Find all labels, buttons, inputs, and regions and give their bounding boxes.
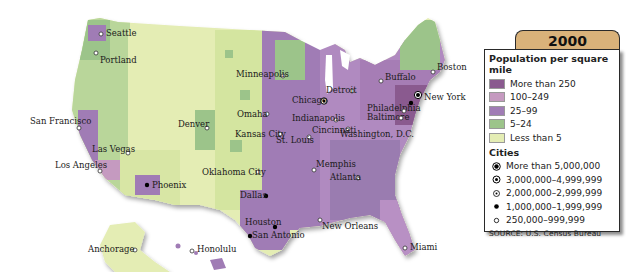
city-label: Memphis [316,159,356,169]
city-label: New York [424,92,466,102]
city-marker: Las Vegas [92,144,135,155]
open-dot-icon [190,249,194,253]
density-class-3: 5–24 [489,118,615,132]
city-class-2: 2,000,000–2,999,999 [489,187,615,201]
large-target-dot-icon [416,93,420,97]
city-label: San Antonio [252,230,305,240]
city-label: Chicago [292,95,327,105]
city-marker: Indianapolis [292,113,345,123]
city-label: Boston [437,62,467,72]
density-class-1: 100–249 [489,91,615,105]
city-marker: Honolulu [190,244,237,254]
map-legend: Population per square mile More than 250… [484,49,620,232]
city-label: Anchorage [87,244,135,254]
open-dot-icon [379,79,383,83]
density-class-4: Less than 5 [489,131,615,145]
open-dot-icon [431,70,435,74]
city-label: Oklahoma City [202,167,266,177]
density-legend-title: Population per square mile [489,53,615,75]
city-marker: Buffalo [379,72,416,83]
city-label: San Francisco [30,116,91,126]
city-marker: Omaha [237,109,269,119]
city-class-0: More than 5,000,000 [489,160,615,174]
city-label: Los Angeles [55,160,107,170]
city-label: Seattle [106,28,137,38]
swatch-more-than-250 [489,79,505,89]
city-class-1: 3,000,000–4,999,999 [489,173,615,187]
city-label: Indianapolis [292,113,345,123]
open-dot-icon [492,216,501,225]
city-marker: Atlanta [329,172,361,182]
density-class-2: 25–99 [489,104,615,118]
city-marker: Chicago [292,95,327,105]
open-dot-icon [99,32,103,36]
city-class-3: 1,000,000–1,999,999 [489,200,615,214]
city-label: Denver [178,119,210,129]
city-marker: Detroit [326,85,357,95]
city-label: Dallas [240,190,267,200]
city-label: Atlanta [329,172,361,182]
city-marker: Phoenix [145,180,187,190]
city-label: Miami [410,242,438,252]
city-label: Las Vegas [92,144,135,154]
city-label: Phoenix [152,180,187,190]
open-dot-icon [399,116,403,120]
city-label: Minneapolis [236,69,289,79]
city-marker: Minneapolis [236,69,289,79]
city-label: Honolulu [197,244,237,254]
city-marker: Denver [178,119,210,130]
city-marker: Los Angeles [55,160,107,173]
city-label: New Orleans [322,221,378,231]
city-marker: Oklahoma City [202,167,266,177]
city-label: Portland [100,55,137,65]
city-class-4: 250,000–999,999 [489,214,615,228]
open-dot-icon [403,246,407,250]
source-note: SOURCE: U.S. Census Bureau [489,229,615,238]
city-marker: Anchorage [87,244,137,254]
black-dot-icon [145,183,149,187]
city-label: Omaha [237,109,268,119]
swatch-5-24 [489,119,505,129]
city-marker: San Antonio [248,230,305,240]
city-label: St. Louis [276,135,314,145]
ring-dot-icon [492,175,501,184]
city-marker: St. Louis [276,135,314,145]
year-tab: 2000 [515,30,620,51]
cities-legend-title: Cities [489,147,615,158]
open-dot-icon [77,126,81,130]
city-marker: Dallas [240,190,268,200]
open-dot-icon [94,51,98,55]
city-label: Buffalo [385,72,416,82]
black-dot-icon [492,202,501,211]
city-label: Detroit [326,85,357,95]
city-label: Houston [245,217,282,227]
swatch-less-than-5 [489,133,505,143]
swatch-25-99 [489,106,505,116]
large-target-dot-icon [492,162,501,171]
density-class-0: More than 250 [489,77,615,91]
city-label: Washington, D.C. [340,129,414,139]
swatch-100-249 [489,92,505,102]
small-ring-dot-icon [492,189,501,198]
